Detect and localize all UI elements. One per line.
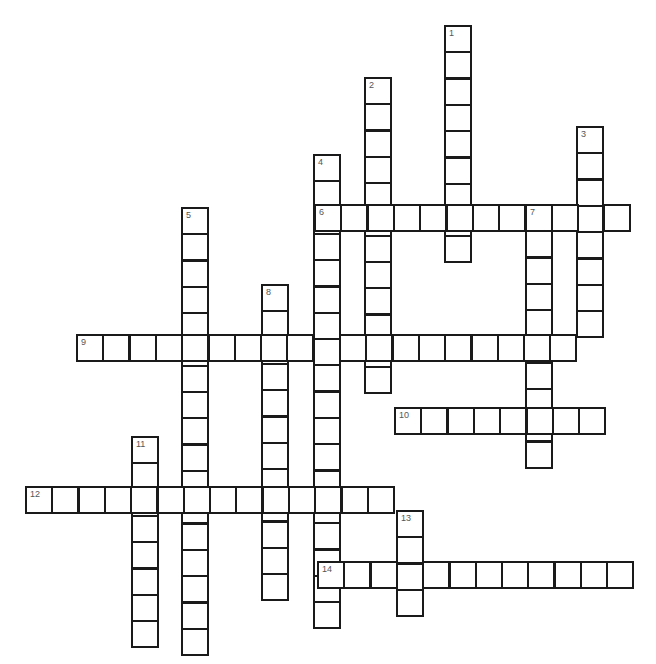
crossword-cell[interactable] <box>364 366 392 394</box>
crossword-cell[interactable] <box>576 205 604 233</box>
crossword-cell[interactable] <box>181 444 209 472</box>
crossword-cell[interactable] <box>209 486 237 514</box>
crossword-cell[interactable] <box>262 486 290 514</box>
crossword-cell[interactable] <box>606 561 634 589</box>
crossword-cell[interactable] <box>367 204 395 232</box>
crossword-cell[interactable]: 3 <box>576 126 604 154</box>
crossword-cell[interactable] <box>576 179 604 207</box>
crossword-cell[interactable] <box>446 204 474 232</box>
crossword-cell[interactable] <box>525 362 553 390</box>
crossword-cell[interactable] <box>261 573 289 601</box>
crossword-cell[interactable] <box>340 204 368 232</box>
crossword-cell[interactable] <box>578 407 606 435</box>
crossword-cell[interactable] <box>181 417 209 445</box>
crossword-cell[interactable] <box>261 416 289 444</box>
crossword-cell[interactable]: 7 <box>525 204 553 232</box>
crossword-cell[interactable] <box>526 407 554 435</box>
crossword-cell[interactable]: 8 <box>261 284 289 312</box>
crossword-cell[interactable] <box>181 549 209 577</box>
crossword-cell[interactable]: 13 <box>396 510 424 538</box>
crossword-cell[interactable] <box>78 486 106 514</box>
crossword-cell[interactable] <box>364 287 392 315</box>
crossword-cell[interactable] <box>444 51 472 79</box>
crossword-cell[interactable] <box>261 521 289 549</box>
crossword-cell[interactable] <box>364 103 392 131</box>
crossword-cell[interactable] <box>364 235 392 263</box>
crossword-cell[interactable]: 4 <box>313 154 341 182</box>
crossword-cell[interactable] <box>181 286 209 314</box>
crossword-cell[interactable] <box>155 334 183 362</box>
crossword-cell[interactable] <box>339 334 367 362</box>
crossword-cell[interactable] <box>341 486 369 514</box>
crossword-cell[interactable] <box>523 334 551 362</box>
crossword-cell[interactable] <box>419 204 447 232</box>
crossword-cell[interactable] <box>313 312 341 340</box>
crossword-cell[interactable] <box>576 152 604 180</box>
crossword-cell[interactable] <box>181 602 209 630</box>
crossword-cell[interactable] <box>447 407 475 435</box>
crossword-cell[interactable]: 11 <box>131 436 159 464</box>
crossword-cell[interactable] <box>552 407 580 435</box>
crossword-cell[interactable] <box>549 334 577 362</box>
crossword-cell[interactable]: 1 <box>444 25 472 53</box>
crossword-cell[interactable] <box>501 561 529 589</box>
crossword-cell[interactable] <box>181 523 209 551</box>
crossword-cell[interactable] <box>396 536 424 564</box>
crossword-cell[interactable] <box>208 334 236 362</box>
crossword-cell[interactable] <box>475 561 503 589</box>
crossword-cell[interactable] <box>51 486 79 514</box>
crossword-cell[interactable] <box>235 486 263 514</box>
crossword-cell[interactable] <box>576 310 604 338</box>
crossword-cell[interactable] <box>313 601 341 629</box>
crossword-cell[interactable] <box>181 233 209 261</box>
crossword-cell[interactable] <box>313 286 341 314</box>
crossword-cell[interactable] <box>104 486 132 514</box>
crossword-cell[interactable] <box>313 338 341 366</box>
crossword-cell[interactable]: 12 <box>25 486 53 514</box>
crossword-cell[interactable] <box>393 204 421 232</box>
crossword-cell[interactable] <box>261 547 289 575</box>
crossword-cell[interactable] <box>422 561 450 589</box>
crossword-cell[interactable] <box>525 230 553 258</box>
crossword-cell[interactable] <box>471 334 499 362</box>
crossword-cell[interactable] <box>286 334 314 362</box>
crossword-cell[interactable] <box>444 130 472 158</box>
crossword-cell[interactable] <box>288 486 316 514</box>
crossword-cell[interactable] <box>498 204 526 232</box>
crossword-cell[interactable] <box>551 204 579 232</box>
crossword-cell[interactable] <box>525 309 553 337</box>
crossword-cell[interactable] <box>183 486 211 514</box>
crossword-cell[interactable] <box>472 204 500 232</box>
crossword-cell[interactable] <box>576 258 604 286</box>
crossword-cell[interactable] <box>314 486 342 514</box>
crossword-cell[interactable] <box>234 334 262 362</box>
crossword-cell[interactable] <box>261 442 289 470</box>
crossword-cell[interactable] <box>131 568 159 596</box>
crossword-cell[interactable]: 6 <box>314 204 342 232</box>
crossword-cell[interactable] <box>580 561 608 589</box>
crossword-cell[interactable] <box>261 389 289 417</box>
crossword-cell[interactable] <box>131 515 159 543</box>
crossword-cell[interactable] <box>181 575 209 603</box>
crossword-cell[interactable] <box>313 417 341 445</box>
crossword-cell[interactable] <box>396 563 424 591</box>
crossword-cell[interactable] <box>396 589 424 617</box>
crossword-cell[interactable] <box>444 334 472 362</box>
crossword-cell[interactable]: 10 <box>394 407 422 435</box>
crossword-cell[interactable] <box>364 261 392 289</box>
crossword-cell[interactable] <box>131 620 159 648</box>
crossword-cell[interactable] <box>364 156 392 184</box>
crossword-cell[interactable]: 14 <box>317 561 345 589</box>
crossword-cell[interactable] <box>603 204 631 232</box>
crossword-cell[interactable] <box>576 284 604 312</box>
crossword-cell[interactable] <box>313 522 341 550</box>
crossword-cell[interactable] <box>444 104 472 132</box>
crossword-cell[interactable] <box>497 334 525 362</box>
crossword-cell[interactable] <box>260 334 288 362</box>
crossword-cell[interactable] <box>525 257 553 285</box>
crossword-cell[interactable]: 5 <box>181 207 209 235</box>
crossword-cell[interactable] <box>181 365 209 393</box>
crossword-cell[interactable]: 9 <box>76 334 104 362</box>
crossword-cell[interactable]: 2 <box>364 77 392 105</box>
crossword-cell[interactable] <box>499 407 527 435</box>
